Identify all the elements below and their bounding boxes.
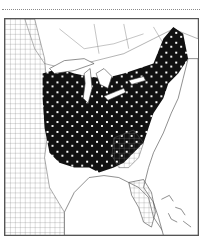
map-frame xyxy=(4,18,199,236)
county-map xyxy=(5,19,198,235)
caption-area xyxy=(0,238,208,246)
top-dotted-rule xyxy=(2,9,200,10)
